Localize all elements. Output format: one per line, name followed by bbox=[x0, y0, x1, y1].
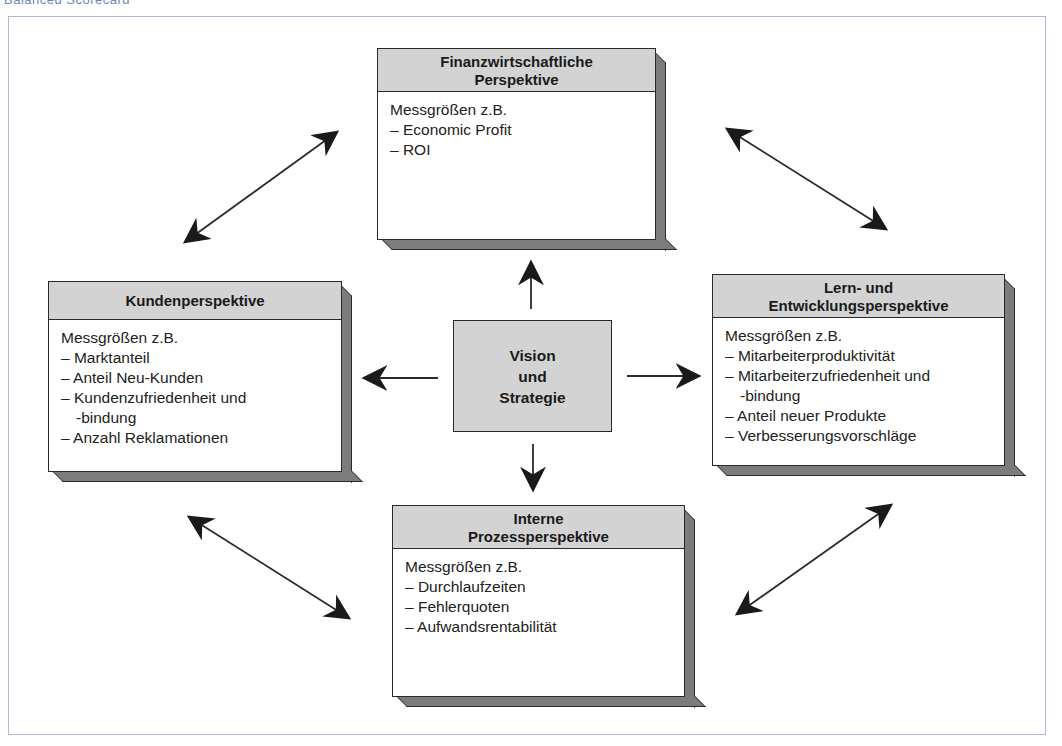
measure-item: – Economic Profit bbox=[390, 120, 645, 140]
title-line: Entwicklungsperspektive bbox=[719, 297, 998, 315]
title-line: Lern- und bbox=[719, 279, 998, 297]
card-depth-bottom bbox=[396, 696, 706, 707]
title-line: Interne bbox=[399, 510, 678, 528]
center-line: und bbox=[499, 366, 565, 387]
title-line: Prozessperspektive bbox=[399, 528, 678, 546]
center-line: Strategie bbox=[499, 387, 565, 408]
card-title: Finanzwirtschaftliche Perspektive bbox=[378, 49, 655, 92]
card-depth-bottom bbox=[381, 239, 677, 250]
title-line: Kundenperspektive bbox=[55, 292, 335, 310]
card-depth-bottom bbox=[716, 465, 1026, 476]
measure-item: – Mitarbeiterzufriedenheit und bbox=[725, 366, 994, 386]
card-face: Finanzwirtschaftliche Perspektive Messgr… bbox=[377, 48, 656, 240]
card-body: Messgrößen z.B. – Mitarbeiterproduktivit… bbox=[713, 318, 1004, 446]
measure-item: – Anzahl Reklamationen bbox=[61, 428, 331, 448]
measure-item: – Anteil neuer Produkte bbox=[725, 406, 994, 426]
card-process-perspective: Interne Prozessperspektive Messgrößen z.… bbox=[392, 505, 695, 707]
card-title: Kundenperspektive bbox=[49, 282, 341, 320]
center-line: Vision bbox=[499, 345, 565, 366]
measure-item: – Marktanteil bbox=[61, 348, 331, 368]
card-depth-side bbox=[655, 52, 666, 251]
card-title: Interne Prozessperspektive bbox=[393, 506, 684, 549]
vision-strategy-box: Vision und Strategie bbox=[453, 320, 612, 432]
card-depth-side bbox=[1004, 278, 1015, 477]
measure-item: – ROI bbox=[390, 140, 645, 160]
card-body: Messgrößen z.B. – Economic Profit – ROI bbox=[378, 92, 655, 160]
card-customer-perspective: Kundenperspektive Messgrößen z.B. – Mark… bbox=[48, 281, 352, 482]
title-line: Perspektive bbox=[384, 71, 649, 89]
measures-intro: Messgrößen z.B. bbox=[405, 557, 674, 577]
card-face: Kundenperspektive Messgrößen z.B. – Mark… bbox=[48, 281, 342, 472]
measures-intro: Messgrößen z.B. bbox=[725, 326, 994, 346]
card-body: Messgrößen z.B. – Marktanteil – Anteil N… bbox=[49, 320, 341, 448]
card-learning-perspective: Lern- und Entwicklungsperspektive Messgr… bbox=[712, 274, 1015, 476]
measure-item-continuation: -bindung bbox=[725, 386, 994, 406]
title-line: Finanzwirtschaftliche bbox=[384, 53, 649, 71]
figure-caption: Balanced Scorecard bbox=[4, 0, 130, 7]
card-financial-perspective: Finanzwirtschaftliche Perspektive Messgr… bbox=[377, 48, 666, 250]
card-face: Interne Prozessperspektive Messgrößen z.… bbox=[392, 505, 685, 697]
card-depth-side bbox=[684, 509, 695, 708]
measure-item: – Aufwandsrentabilität bbox=[405, 617, 674, 637]
card-title: Lern- und Entwicklungsperspektive bbox=[713, 275, 1004, 318]
measure-item: – Verbesserungsvorschläge bbox=[725, 426, 994, 446]
card-depth-bottom bbox=[52, 471, 363, 482]
card-face: Lern- und Entwicklungsperspektive Messgr… bbox=[712, 274, 1005, 466]
measure-item: – Fehlerquoten bbox=[405, 597, 674, 617]
measure-item: – Durchlaufzeiten bbox=[405, 577, 674, 597]
measure-item: – Mitarbeiterproduktivität bbox=[725, 346, 994, 366]
measure-item: – Kundenzufriedenheit und bbox=[61, 388, 331, 408]
card-body: Messgrößen z.B. – Durchlaufzeiten – Fehl… bbox=[393, 549, 684, 637]
measures-intro: Messgrößen z.B. bbox=[390, 100, 645, 120]
card-depth-side bbox=[341, 285, 352, 483]
measure-item: – Anteil Neu-Kunden bbox=[61, 368, 331, 388]
measure-item-continuation: -bindung bbox=[61, 408, 331, 428]
measures-intro: Messgrößen z.B. bbox=[61, 328, 331, 348]
